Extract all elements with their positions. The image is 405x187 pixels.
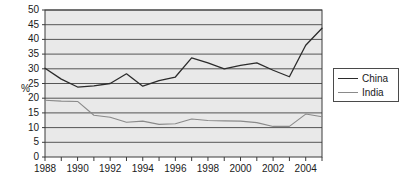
x-axis-tick-label: 1990 xyxy=(61,163,95,174)
legend-item-china: China xyxy=(338,71,388,85)
y-axis-tick-label: 20 xyxy=(13,93,39,103)
legend-label-china: China xyxy=(362,73,388,84)
y-axis-tick-label: 35 xyxy=(13,49,39,59)
legend-label-india: India xyxy=(362,87,384,98)
x-axis-tick-label: 1996 xyxy=(158,163,192,174)
y-axis-tick-label: 5 xyxy=(13,137,39,147)
y-axis-tick-label: 50 xyxy=(13,5,39,15)
x-axis-tick-label: 1992 xyxy=(93,163,127,174)
y-axis-tick-label: 10 xyxy=(13,123,39,133)
legend-item-india: India xyxy=(338,85,384,99)
y-axis-tick-label: 30 xyxy=(13,64,39,74)
x-axis-tick-label: 1988 xyxy=(28,163,62,174)
x-axis-tick-label: 2000 xyxy=(224,163,258,174)
legend: China India xyxy=(333,68,399,102)
legend-swatch-china xyxy=(338,78,358,79)
x-axis-tick-label: 2004 xyxy=(289,163,323,174)
legend-swatch-india xyxy=(338,92,358,93)
y-axis-tick-label: 0 xyxy=(13,152,39,162)
x-axis-tick-label: 2002 xyxy=(256,163,290,174)
y-axis-tick-label: 25 xyxy=(13,79,39,89)
y-axis-tick-label: 45 xyxy=(13,20,39,30)
line-chart: % 05101520253035404550 19881990199219941… xyxy=(0,0,405,187)
x-axis-tick-label: 1994 xyxy=(126,163,160,174)
y-axis-tick-label: 15 xyxy=(13,108,39,118)
x-axis-tick-label: 1998 xyxy=(191,163,225,174)
y-axis-tick-label: 40 xyxy=(13,34,39,44)
